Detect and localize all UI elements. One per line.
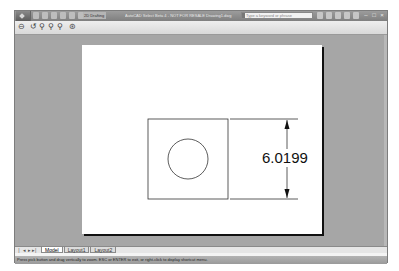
window-controls: – □ ×: [363, 12, 385, 19]
window-title: AutoCAD Select Beta 4 - NOT FOR RESALE D…: [125, 11, 235, 21]
zoom-previous-icon[interactable]: ⚲: [47, 23, 55, 31]
quick-access-toolbar: [33, 12, 84, 20]
keyword-search-input[interactable]: Type a keyword or phrase: [241, 12, 313, 19]
dimension-text[interactable]: 6.0199: [262, 150, 308, 166]
undo-icon[interactable]: [60, 12, 66, 19]
orbit-icon[interactable]: ⊛: [68, 23, 76, 31]
circle[interactable]: [168, 139, 208, 179]
drawing-canvas[interactable]: 6.0199: [15, 35, 387, 246]
autocad-window: 2D Drafting AutoCAD Select Beta 4 - NOT …: [14, 10, 388, 263]
application-menu-button[interactable]: [16, 11, 31, 21]
minimize-button[interactable]: –: [363, 12, 369, 19]
save-icon[interactable]: [51, 12, 57, 19]
square-rectangle[interactable]: [148, 119, 228, 199]
zoom-extents-icon[interactable]: ⚲: [56, 23, 64, 31]
redo-icon[interactable]: [69, 12, 75, 19]
close-button[interactable]: ×: [379, 12, 385, 19]
maximize-button[interactable]: □: [371, 12, 377, 19]
open-icon[interactable]: [42, 12, 48, 19]
favorites-icon[interactable]: [344, 12, 350, 19]
workspace-dropdown[interactable]: 2D Drafting: [83, 12, 106, 19]
command-status-bar: Press pick button and drag vertically to…: [15, 256, 387, 264]
subscription-center-icon[interactable]: [326, 12, 332, 19]
vertical-scrollbar[interactable]: [384, 35, 387, 254]
paper-sheet: 6.0199: [82, 45, 322, 234]
pan-icon[interactable]: ⊖: [17, 23, 25, 31]
arrow-down-icon: [285, 189, 290, 198]
layout-tabs-bar: |◂ ◂ ▸ ▸| Model Layout1 Layout2: [15, 246, 387, 253]
help-icon[interactable]: [353, 12, 359, 19]
realtime-zoom-icon[interactable]: ↺: [29, 23, 37, 31]
command-prompt-text: Press pick button and drag vertically to…: [17, 256, 208, 264]
title-bar: 2D Drafting AutoCAD Select Beta 4 - NOT …: [15, 11, 387, 21]
search-icon[interactable]: [317, 12, 323, 19]
new-icon[interactable]: [33, 12, 39, 19]
drawing-geometry: [82, 45, 322, 234]
arrow-up-icon: [285, 120, 290, 129]
infocenter-icons: [317, 12, 359, 19]
zoom-window-icon[interactable]: ⚲: [38, 23, 46, 31]
communication-center-icon[interactable]: [335, 12, 341, 19]
navigation-toolbar: ⊖ ↺ ⚲ ⚲ ⚲ ⊛: [15, 21, 387, 35]
